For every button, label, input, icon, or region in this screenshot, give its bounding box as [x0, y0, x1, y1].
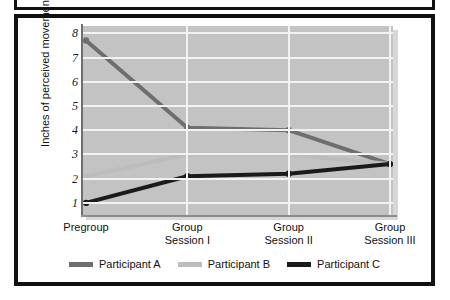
top-cut-off-strip: [14, 0, 435, 10]
y-tick-label-8: 8: [62, 27, 78, 39]
x-tick-label-1: GroupSession I: [132, 221, 242, 246]
gridline-x-1: [186, 26, 188, 215]
gridline-y-2: [83, 178, 393, 180]
series-line-3: [86, 164, 390, 203]
x-tick-line: Group: [335, 221, 445, 234]
y-tick-label-6: 6: [62, 76, 78, 88]
gridline-y-6: [83, 81, 393, 83]
x-tick-line: Session I: [132, 234, 242, 247]
y-tick-label-4: 4: [62, 124, 78, 136]
series-lines: [83, 26, 393, 215]
gridline-y-3: [83, 153, 393, 155]
y-axis-line: [81, 24, 83, 217]
x-tick-line: Pregroup: [31, 221, 141, 234]
legend-swatch-3: [287, 262, 311, 267]
y-tick-label-1: 1: [62, 197, 78, 209]
series-line-2: [86, 154, 390, 176]
y-tick-label-3: 3: [62, 148, 78, 160]
gridline-x-2: [288, 26, 290, 215]
series-line-1: [86, 41, 390, 165]
gridline-y-7: [83, 57, 393, 59]
plot-area: [83, 26, 393, 215]
y-axis-label: Inches of perceived movement: [39, 0, 51, 147]
y-axis-ticks: 87654321: [58, 18, 78, 282]
data-point-1-0: [83, 37, 89, 43]
gridline-y-1: [83, 202, 393, 204]
legend-item-2[interactable]: Participant B: [178, 258, 270, 270]
y-tick-label-2: 2: [62, 173, 78, 185]
x-tick-line: Group: [234, 221, 344, 234]
legend-swatch-1: [69, 262, 93, 267]
x-axis-line: [81, 215, 397, 217]
legend-item-3[interactable]: Participant C: [287, 258, 380, 270]
legend-label-1: Participant A: [99, 258, 161, 270]
gridline-y-4: [83, 129, 393, 131]
line-chart: 87654321 Inches of perceived movement Pr…: [18, 18, 431, 282]
gridline-y-8: [83, 32, 393, 34]
x-tick-label-3: GroupSession III: [335, 221, 445, 246]
x-tick-line: Session III: [335, 234, 445, 247]
x-tick-label-0: Pregroup: [31, 221, 141, 234]
chart-legend: Participant AParticipant BParticipant C: [18, 258, 431, 270]
figure-frame: 87654321 Inches of perceived movement Pr…: [14, 14, 435, 286]
gridline-x-3: [389, 26, 391, 215]
y-tick-label-5: 5: [62, 100, 78, 112]
x-tick-label-2: GroupSession II: [234, 221, 344, 246]
gridline-y-5: [83, 105, 393, 107]
legend-swatch-2: [178, 262, 202, 267]
x-tick-line: Group: [132, 221, 242, 234]
legend-label-2: Participant B: [208, 258, 270, 270]
y-tick-label-7: 7: [62, 52, 78, 64]
legend-label-3: Participant C: [317, 258, 380, 270]
legend-item-1[interactable]: Participant A: [69, 258, 161, 270]
x-tick-line: Session II: [234, 234, 344, 247]
